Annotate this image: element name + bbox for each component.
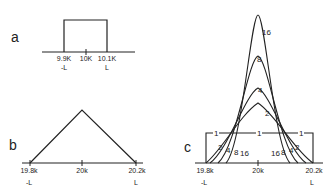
left-label-16: 16 [240, 149, 249, 158]
left-label-8: 8 [234, 148, 239, 157]
panel-c-tick-left: 19.8k [196, 167, 214, 174]
left-label-4: 4 [226, 146, 231, 155]
panel-b-sub-left: -L [26, 179, 32, 186]
peak-label-16: 16 [262, 28, 271, 37]
panel-b-tick-right: 20.2k [128, 167, 146, 174]
panel-b-label: b [9, 137, 17, 153]
panel-a-tick-left: 9.9K [57, 55, 72, 62]
panel-a-sub-right: L [105, 64, 109, 71]
panel-c-sub-right: L [310, 179, 314, 186]
panel-c-label: c [184, 139, 191, 155]
right-label-16: 16 [271, 149, 280, 158]
panel-a: a 9.9K 10K 10.1K -L L [11, 20, 135, 71]
right-label-8: 8 [281, 148, 286, 157]
peak-label-2: 2 [265, 109, 270, 118]
panel-b-tick-left: 19.8k [20, 167, 38, 174]
panel-b-tick-center: 20k [76, 167, 88, 174]
panel-c-tick-center: 20k [252, 167, 264, 174]
peak-label-8: 8 [257, 55, 262, 64]
panel-a-tick-right: 10.1K [98, 55, 117, 62]
panel-c-sub-left: -L [201, 179, 207, 186]
right-label-4: 4 [289, 146, 294, 155]
panel-b-triangle [30, 110, 136, 163]
panel-a-tick-center: 10K [80, 55, 93, 62]
panel-c-tick-right: 20.2k [305, 167, 323, 174]
panel-a-sub-left: -L [61, 64, 67, 71]
left-label-2: 2 [218, 143, 223, 152]
panel-b: b 19.8k 20k 20.2k -L L [9, 110, 146, 186]
panel-b-sub-right: L [134, 179, 138, 186]
panel-a-label: a [11, 29, 19, 45]
flat-label-center: 1 [257, 129, 262, 138]
right-label-2: 2 [295, 143, 300, 152]
diagram-canvas: a 9.9K 10K 10.1K -L L b 19.8k 20k 20.2k … [0, 0, 333, 193]
flat-label-left: 1 [214, 129, 219, 138]
peak-label-4: 4 [258, 86, 263, 95]
panel-a-rectangle [64, 20, 107, 52]
flat-label-right: 1 [299, 129, 304, 138]
